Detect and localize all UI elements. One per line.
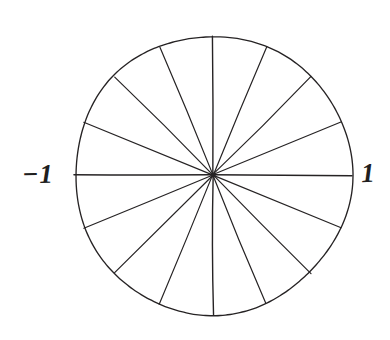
spoke-225-deg bbox=[115, 175, 214, 273]
spoke-135-deg bbox=[115, 77, 213, 175]
circle-diagram bbox=[0, 0, 390, 340]
center-point bbox=[210, 172, 215, 177]
spoke-0-deg bbox=[213, 175, 352, 176]
spokes-group bbox=[74, 36, 352, 314]
spoke-270-deg bbox=[212, 175, 213, 314]
spoke-315-deg bbox=[213, 175, 311, 274]
spoke-45-deg bbox=[213, 76, 311, 174]
spoke-157-5-deg bbox=[84, 122, 213, 175]
figure-canvas: −1 1 bbox=[0, 0, 390, 340]
spoke-337-5-deg bbox=[213, 175, 341, 228]
axis-label-negative-one: −1 bbox=[22, 161, 54, 189]
spoke-112-5-deg bbox=[160, 47, 213, 175]
axis-label-positive-one: 1 bbox=[360, 160, 375, 188]
spoke-90-deg bbox=[212, 36, 213, 175]
